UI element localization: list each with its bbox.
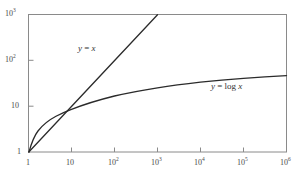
x-tick-label-10000: 104 [194, 158, 205, 167]
y-tick-label-1000: 103 [5, 9, 16, 18]
x-tick-label-100: 102 [108, 158, 119, 167]
annotation-y-equals-x: y = x [78, 43, 96, 53]
x-tick-label-1000: 103 [151, 158, 162, 167]
y-tick-label-100: 102 [5, 55, 16, 64]
y-tick-label-1: 1 [17, 147, 21, 156]
x-tick-label-1000000: 106 [280, 158, 291, 167]
x-tick-label-10: 10 [66, 158, 74, 167]
plot-frame [29, 15, 287, 153]
x-tick-label-100000: 105 [237, 158, 248, 167]
y-tick-label-10: 10 [11, 101, 19, 110]
annotation-y-equals-log-x: y = log x [211, 81, 242, 91]
log-log-plot [0, 0, 303, 176]
x-tick-label-1: 1 [26, 158, 30, 167]
